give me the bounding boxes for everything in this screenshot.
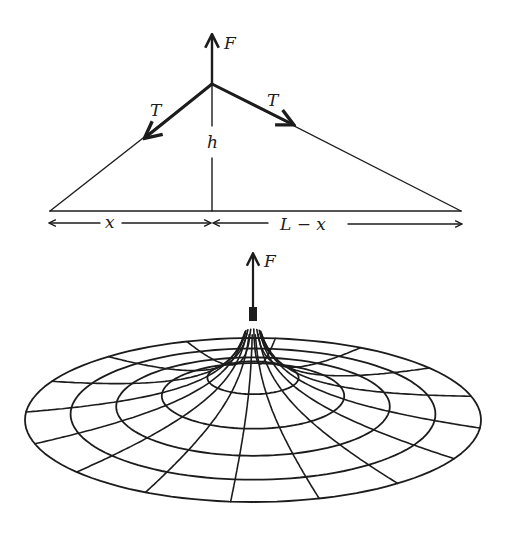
membrane-radial-line — [260, 333, 454, 458]
string-diagram: F T T h x L − x — [50, 33, 461, 234]
tension-right-label: T — [267, 90, 280, 110]
figure-canvas: F T T h x L − x F — [0, 0, 508, 559]
membrane-labels: F — [249, 251, 277, 321]
membrane-peak-cap — [249, 307, 257, 321]
height-label: h — [207, 132, 218, 152]
tension-right-arrow — [212, 84, 292, 124]
left-span-label: x — [105, 212, 115, 232]
membrane-ring — [116, 357, 390, 455]
membrane-ring — [162, 363, 344, 429]
membrane-force-label: F — [263, 251, 277, 271]
membrane-diagram — [25, 329, 481, 502]
force-label: F — [223, 33, 237, 53]
tension-left-label: T — [150, 100, 163, 120]
membrane-radial-line — [261, 332, 480, 428]
right-span-label: L − x — [279, 214, 326, 234]
membrane-radial-line — [26, 332, 245, 412]
membrane-ring — [71, 349, 436, 480]
